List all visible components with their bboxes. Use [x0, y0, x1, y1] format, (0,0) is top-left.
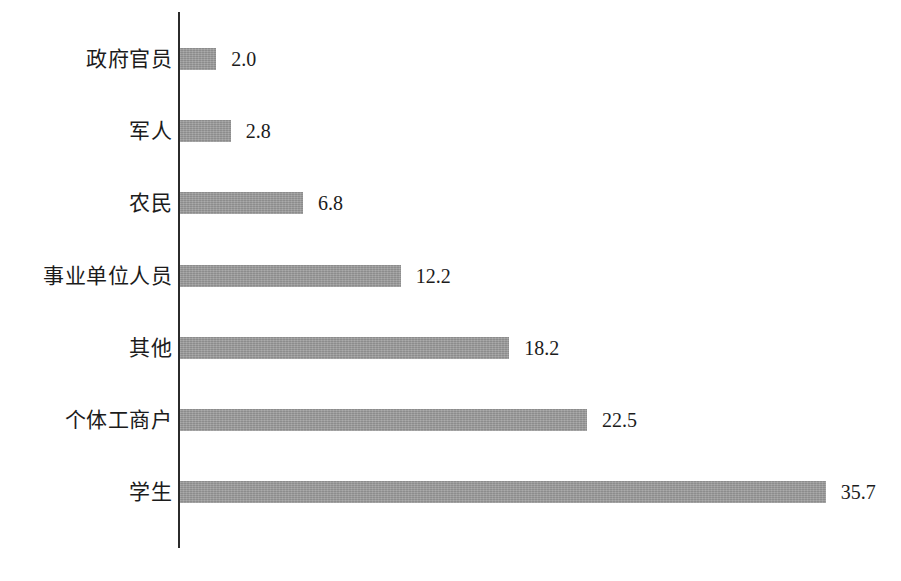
category-label: 农民	[129, 193, 172, 214]
bar-value-label: 12.2	[416, 266, 451, 286]
bar-value-label: 2.0	[231, 49, 256, 69]
category-label: 军人	[129, 121, 172, 142]
plot-area: 政府官员 2.0 军人 2.8 农民 6.8 事业单位人员 12.2 其他 18…	[0, 0, 901, 581]
category-label: 学生	[129, 482, 172, 503]
bar	[180, 120, 231, 142]
bar	[180, 192, 303, 214]
category-label: 政府官员	[86, 49, 172, 70]
bar-row: 个体工商户 22.5	[0, 409, 901, 431]
bar-row: 事业单位人员 12.2	[0, 265, 901, 287]
bar-value-label: 22.5	[602, 410, 637, 430]
bar-value-label: 18.2	[524, 338, 559, 358]
figure-caption-strip	[0, 573, 901, 581]
bar	[180, 265, 401, 287]
bar	[180, 409, 587, 431]
bar-value-label: 35.7	[841, 482, 876, 502]
bar-row: 政府官员 2.0	[0, 48, 901, 70]
bar	[180, 481, 826, 503]
bar-row: 农民 6.8	[0, 192, 901, 214]
category-label: 个体工商户	[65, 410, 173, 431]
bar-row: 军人 2.8	[0, 120, 901, 142]
bar-chart-figure: 政府官员 2.0 军人 2.8 农民 6.8 事业单位人员 12.2 其他 18…	[0, 0, 901, 581]
bar-row: 学生 35.7	[0, 481, 901, 503]
bar	[180, 337, 509, 359]
bar-value-label: 2.8	[246, 121, 271, 141]
bar	[180, 48, 216, 70]
category-label: 其他	[129, 337, 172, 358]
bar-row: 其他 18.2	[0, 337, 901, 359]
category-label: 事业单位人员	[43, 265, 172, 286]
bar-value-label: 6.8	[318, 193, 343, 213]
